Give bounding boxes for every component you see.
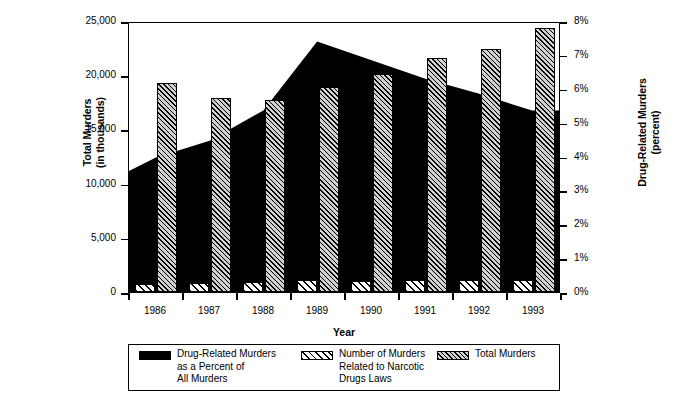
x-axis-tick-label: 1993	[503, 305, 563, 316]
x-axis-tick-mark	[182, 293, 184, 300]
y-axis-right-tick-label: 4%	[574, 151, 588, 162]
y-axis-left-tick-label: 10,000	[85, 178, 116, 189]
y-axis-right-tick-mark	[560, 56, 567, 58]
y-axis-right-tick-label: 8%	[574, 15, 588, 26]
y-axis-right-title-line2: (percent)	[648, 33, 661, 233]
y-axis-left-tick-label: 5,000	[91, 232, 116, 243]
x-axis-tick-mark	[560, 293, 562, 300]
y-axis-left-tick-label: 20,000	[85, 69, 116, 80]
y-axis-right-tick-label: 0%	[574, 286, 588, 297]
total-murders-bar	[319, 87, 339, 292]
y-axis-right-tick-label: 1%	[574, 252, 588, 263]
y-axis-right-title: Drug-Related Murders (percent)	[636, 33, 661, 233]
legend-swatch	[139, 351, 171, 360]
x-axis-tick-label: 1990	[341, 305, 401, 316]
total-murders-bar	[157, 83, 177, 292]
legend-entries: Drug-Related Murders as a Percent of All…	[129, 350, 559, 395]
y-axis-right-tick-mark	[560, 225, 567, 227]
plot-area	[128, 22, 560, 293]
narcotic-murders-bar	[351, 281, 371, 292]
total-murders-bar	[373, 74, 393, 292]
total-murders-bar	[535, 28, 555, 292]
y-axis-right-title-line1: Drug-Related Murders	[636, 33, 649, 233]
y-axis-left-tick-mark	[121, 130, 128, 132]
narcotic-murders-bar	[405, 280, 425, 292]
y-axis-right-tick-label: 2%	[574, 218, 588, 229]
y-axis-left-tick-mark	[121, 239, 128, 241]
x-axis-tick-label: 1989	[287, 305, 347, 316]
x-axis-tick-mark	[236, 293, 238, 300]
y-axis-right-tick-mark	[560, 124, 567, 126]
y-axis-right-tick-label: 7%	[574, 49, 588, 60]
total-murders-bar	[265, 100, 285, 292]
y-axis-right-tick-label: 6%	[574, 83, 588, 94]
narcotic-murders-bar	[135, 284, 155, 292]
y-axis-left-tick-mark	[121, 76, 128, 78]
total-murders-bar	[481, 49, 501, 292]
y-axis-right-tick-mark	[560, 191, 567, 193]
x-axis-tick-mark	[290, 293, 292, 300]
legend-swatch	[437, 351, 469, 360]
x-axis-tick-label: 1986	[125, 305, 185, 316]
y-axis-right-tick-mark	[560, 22, 567, 24]
y-axis-right-tick-label: 5%	[574, 117, 588, 128]
y-axis-left-tick-label: 0	[110, 286, 116, 297]
total-murders-bar	[211, 98, 231, 292]
x-axis-tick-mark	[344, 293, 346, 300]
narcotic-murders-bar	[297, 280, 317, 292]
legend-label: Total Murders	[475, 348, 625, 361]
chart-legend: Drug-Related Murders as a Percent of All…	[128, 344, 560, 391]
y-axis-right-tick-mark	[560, 90, 567, 92]
x-axis-tick-mark	[506, 293, 508, 300]
total-murders-bar	[427, 58, 447, 292]
narcotic-murders-bar	[189, 283, 209, 292]
x-axis-tick-mark	[398, 293, 400, 300]
x-axis-tick-label: 1987	[179, 305, 239, 316]
narcotic-murders-bar	[513, 280, 533, 292]
y-axis-left-tick-label: 15,000	[85, 123, 116, 134]
y-axis-left-tick-mark	[121, 185, 128, 187]
x-axis-title: Year	[128, 326, 560, 338]
x-axis-tick-mark	[452, 293, 454, 300]
legend-swatch	[301, 351, 333, 360]
y-axis-right-tick-mark	[560, 259, 567, 261]
plot-inner	[129, 23, 559, 292]
x-axis-tick-mark	[128, 293, 130, 300]
x-axis-tick-label: 1992	[449, 305, 509, 316]
y-axis-right-tick-mark	[560, 158, 567, 160]
x-axis-tick-label: 1988	[233, 305, 293, 316]
y-axis-right-tick-label: 3%	[574, 184, 588, 195]
y-axis-left-tick-label: 25,000	[85, 15, 116, 26]
narcotic-murders-bar	[459, 280, 479, 292]
narcotic-murders-bar	[243, 282, 263, 292]
x-axis-tick-label: 1991	[395, 305, 455, 316]
chart-figure: Total Murders (in thousands) Drug-Relate…	[0, 0, 677, 409]
y-axis-left-tick-mark	[121, 293, 128, 295]
y-axis-left-tick-mark	[121, 22, 128, 24]
